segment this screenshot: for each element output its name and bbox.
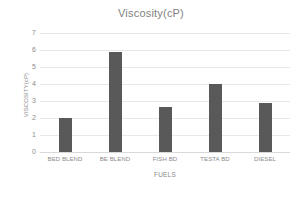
bar-chart-figure: Viscosity(cP) VISCOSITY(cP) 01234567 BED… xyxy=(0,0,302,200)
y-tick-label: 5 xyxy=(16,63,36,70)
y-tick-label: 1 xyxy=(16,131,36,138)
x-axis-tick-labels: BED BLENDBE BLENDFISH BDTESTA BDDIESEL xyxy=(40,156,290,168)
bar[interactable] xyxy=(59,118,72,152)
y-tick-label: 3 xyxy=(16,97,36,104)
chart-title: Viscosity(cP) xyxy=(0,7,302,19)
y-tick-label: 7 xyxy=(16,29,36,36)
bar[interactable] xyxy=(209,84,222,152)
bar-series xyxy=(40,33,290,152)
plot-area xyxy=(40,33,290,152)
x-tick-label: BED BLEND xyxy=(40,156,90,162)
x-tick-label: DIESEL xyxy=(240,156,290,162)
bar[interactable] xyxy=(109,52,122,152)
x-tick-label: FISH BD xyxy=(140,156,190,162)
y-tick-label: 4 xyxy=(16,80,36,87)
y-tick-label: 0 xyxy=(16,148,36,155)
x-axis-title: FUELS xyxy=(40,171,290,178)
y-tick-label: 6 xyxy=(16,46,36,53)
gridline xyxy=(40,152,290,153)
x-tick-label: TESTA BD xyxy=(190,156,240,162)
x-tick-label: BE BLEND xyxy=(90,156,140,162)
y-tick-label: 2 xyxy=(16,114,36,121)
y-axis-tick-labels: 01234567 xyxy=(14,33,36,152)
bar[interactable] xyxy=(259,103,272,152)
bar[interactable] xyxy=(159,107,172,152)
